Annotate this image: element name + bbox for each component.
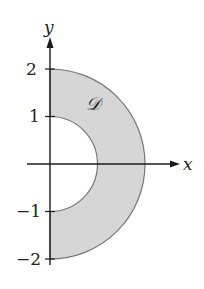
region-diagram: y x 2 1 −1 −2 𝒟 <box>0 0 204 289</box>
tick-label-neg1: −1 <box>16 201 41 221</box>
x-axis-label: x <box>183 154 193 174</box>
tick-label-1: 1 <box>29 106 40 126</box>
tick-label-neg2: −2 <box>16 249 41 269</box>
y-axis-label: y <box>43 17 54 37</box>
x-axis-arrow-icon <box>170 161 180 168</box>
tick-label-2: 2 <box>26 59 37 79</box>
y-axis-arrow-icon <box>47 37 54 48</box>
